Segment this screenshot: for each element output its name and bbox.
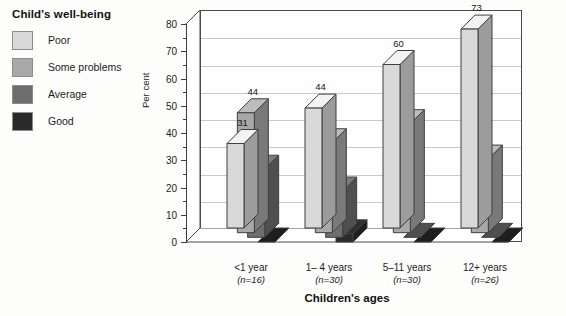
y-axis-title: Per cent: [140, 73, 151, 108]
x-axis-group-label: 12+ years(n=26): [463, 262, 507, 285]
x-axis-group-sample-size: (n=30): [383, 274, 432, 285]
legend-item-poor: Poor: [10, 31, 180, 52]
legend-swatch-good: [12, 112, 33, 131]
legend-swatch-poor: [12, 31, 33, 50]
legend-label-average: Average: [48, 88, 87, 100]
x-axis-group-name: 1– 4 years: [306, 262, 353, 273]
bar: [186, 10, 526, 258]
legend-title: Child's well-being: [12, 8, 180, 20]
legend-swatch-average: [12, 85, 33, 104]
legend-label-some-problems: Some problems: [48, 61, 122, 73]
y-tick-label: 0: [171, 237, 177, 248]
y-tick-label: 60: [166, 73, 177, 84]
legend-item-some-problems: Some problems: [10, 58, 180, 79]
x-axis-group-name: 5–11 years: [383, 262, 432, 273]
legend-swatch-some-problems: [12, 58, 33, 77]
legend: Child's well-being Poor Some problems Av…: [10, 8, 180, 139]
x-axis-group-sample-size: (n=26): [463, 274, 507, 285]
x-axis-group-sample-size: (n=30): [306, 274, 353, 285]
x-axis-group-label: 5–11 years(n=30): [383, 262, 432, 285]
legend-label-good: Good: [48, 115, 74, 127]
legend-item-good: Good: [10, 112, 180, 133]
y-tick-label: 50: [166, 100, 177, 111]
y-tick-label: 20: [166, 182, 177, 193]
x-axis-group-label: 1– 4 years(n=30): [306, 262, 353, 285]
x-axis-group-sample-size: (n=16): [234, 274, 268, 285]
y-tick-label: 30: [166, 155, 177, 166]
chart-figure: Child's well-being Poor Some problems Av…: [0, 0, 566, 316]
y-tick-label: 70: [166, 46, 177, 57]
legend-item-average: Average: [10, 85, 180, 106]
x-axis-group-name: <1 year: [234, 262, 268, 273]
x-axis-group-label: <1 year(n=16): [234, 262, 268, 285]
y-tick-label: 10: [166, 209, 177, 220]
y-tick-label: 40: [166, 128, 177, 139]
bar-value-label: 73: [471, 2, 482, 13]
x-axis-title: Children's ages: [304, 292, 389, 304]
plot-area: Per cent 01020304050607080 2544313173344…: [186, 10, 526, 258]
legend-label-poor: Poor: [48, 34, 70, 46]
x-axis-group-name: 12+ years: [463, 262, 507, 273]
y-tick-label: 80: [166, 19, 177, 30]
